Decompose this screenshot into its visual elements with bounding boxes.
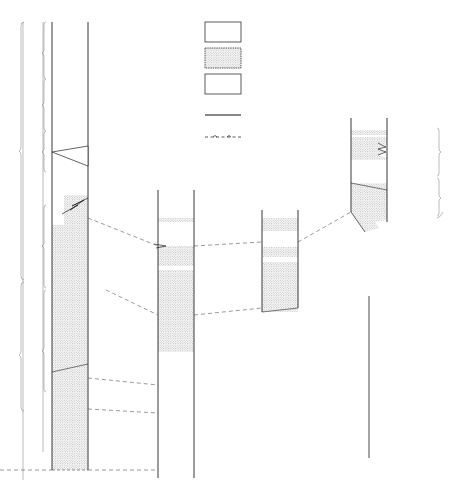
severn-column <box>262 210 298 312</box>
legend-marine-band-symbol <box>205 136 241 138</box>
legend-swatch-sandstone <box>205 48 241 68</box>
correlation-dungy-aegiranum <box>88 409 158 413</box>
somerset-sandstone-body <box>52 225 88 470</box>
left-stratigraphy <box>19 22 46 480</box>
correlation-high-no2 <box>194 242 262 246</box>
correlation-rudge-high <box>88 218 158 246</box>
correlation-mangotsfield-severn <box>194 308 262 315</box>
forest-column <box>351 118 387 232</box>
correlation-no2-coleford <box>298 212 351 242</box>
bristol-column <box>154 190 194 478</box>
legend <box>205 22 241 137</box>
legend-swatch-argillaceous <box>205 22 241 42</box>
correlation-great-course-cambriense <box>88 378 158 385</box>
somerset-column <box>52 22 88 470</box>
right-stratigraphy <box>437 128 443 218</box>
correlation-temple-mangotsfield <box>106 290 158 315</box>
legend-swatch-red-measures <box>205 74 241 94</box>
correlation-diagram <box>0 0 461 486</box>
